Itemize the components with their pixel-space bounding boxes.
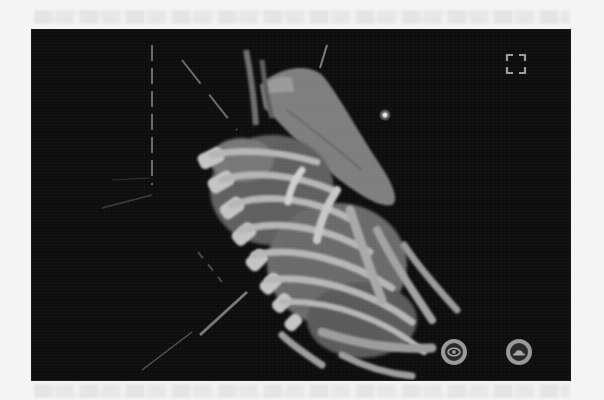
scan-bleed-through-top xyxy=(34,10,570,24)
hat-icon xyxy=(512,347,526,357)
visibility-toggle-button[interactable] xyxy=(441,339,467,365)
view-mode-button[interactable] xyxy=(506,339,532,365)
anatomy-model[interactable] xyxy=(32,30,570,380)
3d-viewport[interactable] xyxy=(32,30,570,380)
scan-bleed-through-bottom xyxy=(34,384,570,398)
fullscreen-icon xyxy=(504,52,528,76)
fullscreen-button[interactable] xyxy=(504,52,528,76)
light-source-icon[interactable] xyxy=(379,109,391,121)
eye-icon xyxy=(447,347,461,357)
